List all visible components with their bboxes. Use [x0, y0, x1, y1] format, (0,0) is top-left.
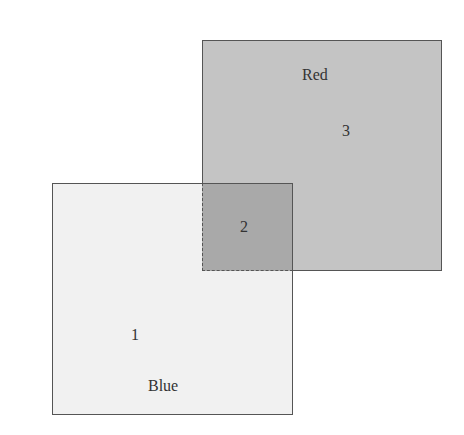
region-1-label: 1 — [131, 326, 139, 344]
red-set-label: Red — [302, 66, 328, 84]
region-2-label: 2 — [240, 218, 248, 236]
blue-set-label: Blue — [148, 377, 178, 395]
region-3-label: 3 — [342, 122, 350, 140]
